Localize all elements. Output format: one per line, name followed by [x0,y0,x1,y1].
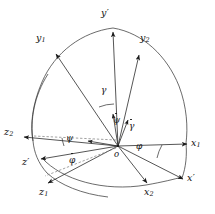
coordinate-diagram-svg [0,0,215,214]
ray-x-prime [118,146,183,179]
ray-y-2 [118,55,139,146]
ray-z-2 [24,137,118,146]
angle-arc-phi [157,145,162,158]
arc-z2-y1-yprime [32,28,113,141]
axis-ray-group [24,32,187,183]
arc-yprime-y2-x1 [113,28,187,143]
arc-zprime-x2-xprime [42,158,182,187]
ray-y-1 [56,54,118,146]
figure-container: y′ y1 y2 x1 x′ x2 z2 z′ z1 o γ ψ φ ψ γ φ [0,0,215,214]
ray-x-2 [118,146,147,183]
arc-z2-down-zprime [33,141,47,173]
arc-group [32,28,187,197]
angle-arc-psi [62,138,64,146]
ray-x-1 [118,144,187,146]
angle-arc-gamma [99,104,114,107]
arc-inner-left [32,74,48,141]
arc-x1-xprime [182,143,186,178]
origin-point [117,145,119,147]
